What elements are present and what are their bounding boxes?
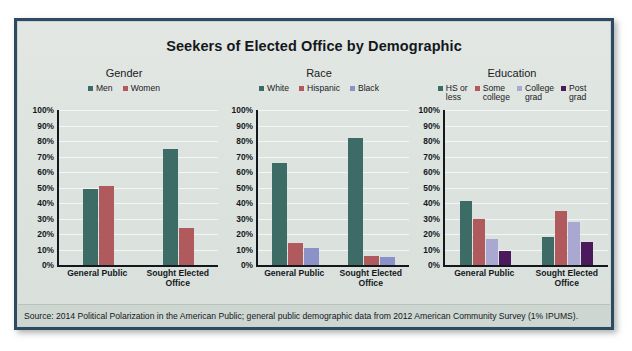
bar[interactable] <box>163 149 178 265</box>
y-axis-tick-label: 20% <box>423 229 440 239</box>
legend-item-label: Women <box>131 84 160 93</box>
bar-groups-gender <box>59 110 218 265</box>
x-axis-labels-gender: General PublicSought Elected Office <box>57 268 218 288</box>
chart-figure-inner: Seekers of Elected Office by Demographic… <box>17 21 611 327</box>
chart-figure-frame: Seekers of Elected Office by Demographic… <box>14 18 614 330</box>
plot-education: 100%90%80%70%60%50%40%30%20%10%0% Genera… <box>412 110 611 290</box>
bar[interactable] <box>581 242 593 265</box>
x-axis-label: General Public <box>257 268 331 288</box>
y-axis-tick-label: 10% <box>37 245 54 255</box>
legend-item[interactable]: College grad <box>517 84 554 103</box>
bar[interactable] <box>473 219 485 266</box>
x-axis-labels-race: General PublicSought Elected Office <box>256 268 409 288</box>
y-axis-tick-label: 80% <box>236 136 253 146</box>
legend-item[interactable]: HS or less <box>438 84 468 103</box>
y-axis-gender: 100%90%80%70%60%50%40%30%20%10%0% <box>26 110 56 265</box>
y-axis-tick-label: 100% <box>33 105 54 115</box>
bar[interactable] <box>380 257 395 265</box>
y-axis-tick-label: 100% <box>419 105 440 115</box>
y-axis-tick-label: 40% <box>37 198 54 208</box>
bar[interactable] <box>179 228 194 265</box>
y-axis-education: 100%90%80%70%60%50%40%30%20%10%0% <box>412 110 442 265</box>
y-axis-tick-label: 80% <box>423 136 440 146</box>
y-axis-tick-label: 20% <box>37 229 54 239</box>
legend-item-label: College grad <box>525 84 554 103</box>
screenshot-root: Seekers of Elected Office by Demographic… <box>0 0 632 351</box>
y-axis-tick-label: 70% <box>37 152 54 162</box>
bar[interactable] <box>542 237 554 265</box>
panel-title-education: Education <box>412 66 611 81</box>
legend-item[interactable]: Women <box>123 84 160 93</box>
y-axis-tick-label: 20% <box>236 229 253 239</box>
bar[interactable] <box>83 189 98 265</box>
bar[interactable] <box>304 248 319 265</box>
bar[interactable] <box>348 138 363 265</box>
bar[interactable] <box>568 222 580 265</box>
y-axis-tick-label: 30% <box>236 214 253 224</box>
bar-group <box>542 110 593 265</box>
bar-group <box>460 110 511 265</box>
chart-panel-race: Race WhiteHispanicBlack 100%90%80%70%60%… <box>225 66 413 298</box>
panel-title-gender: Gender <box>26 66 222 81</box>
legend-education: HS or lessSome collegeCollege gradPost g… <box>412 84 611 108</box>
legend-item-label: Post grad <box>569 84 586 103</box>
y-axis-tick-label: 90% <box>236 121 253 131</box>
y-axis-tick-label: 60% <box>423 167 440 177</box>
panel-title-race: Race <box>225 66 413 81</box>
legend-swatch-icon <box>561 86 566 91</box>
y-axis-tick-label: 0% <box>428 260 440 270</box>
x-axis-label: Sought Elected Office <box>334 268 408 288</box>
legend-item[interactable]: Men <box>88 84 113 93</box>
bar[interactable] <box>288 243 303 265</box>
legend-item[interactable]: Black <box>350 84 379 93</box>
page-title: Seekers of Elected Office by Demographic <box>18 38 610 54</box>
bar[interactable] <box>272 163 287 265</box>
y-axis-tick-label: 30% <box>37 214 54 224</box>
y-axis-tick-label: 60% <box>37 167 54 177</box>
bar-groups-race <box>258 110 409 265</box>
y-axis-tick-label: 80% <box>37 136 54 146</box>
legend-gender: MenWomen <box>26 84 222 108</box>
bar[interactable] <box>364 256 379 265</box>
legend-swatch-icon <box>123 86 128 91</box>
legend-item[interactable]: Post grad <box>561 84 586 103</box>
x-axis-label: General Public <box>447 268 521 288</box>
bar[interactable] <box>555 211 567 265</box>
legend-item-label: Some college <box>483 84 510 103</box>
y-axis-tick-label: 0% <box>241 260 253 270</box>
plot-area-race <box>256 110 409 267</box>
y-axis-tick-label: 40% <box>236 198 253 208</box>
y-axis-tick-label: 10% <box>236 245 253 255</box>
legend-item[interactable]: Hispanic <box>299 84 340 93</box>
plot-gender: 100%90%80%70%60%50%40%30%20%10%0% Genera… <box>26 110 222 290</box>
bar[interactable] <box>499 251 511 265</box>
legend-item-label: Men <box>96 84 113 93</box>
bar[interactable] <box>460 201 472 265</box>
bar-group <box>83 110 114 265</box>
legend-swatch-icon <box>299 86 304 91</box>
legend-item[interactable]: Some college <box>475 84 510 103</box>
y-axis-tick-label: 40% <box>423 198 440 208</box>
legend-item-label: Black <box>358 84 379 93</box>
bar[interactable] <box>99 186 114 265</box>
source-note: Source: 2014 Political Polarization in t… <box>18 311 578 321</box>
legend-item-label: HS or less <box>446 84 468 103</box>
y-axis-tick-label: 50% <box>236 183 253 193</box>
bar-group <box>348 110 395 265</box>
bar-group <box>272 110 319 265</box>
y-axis-tick-label: 50% <box>423 183 440 193</box>
legend-swatch-icon <box>475 86 480 91</box>
source-note-band: Source: 2014 Political Polarization in t… <box>18 304 610 326</box>
y-axis-tick-label: 10% <box>423 245 440 255</box>
y-axis-tick-label: 70% <box>423 152 440 162</box>
bar[interactable] <box>486 239 498 265</box>
legend-item[interactable]: White <box>259 84 289 93</box>
y-axis-tick-label: 60% <box>236 167 253 177</box>
chart-panel-education: Education HS or lessSome collegeCollege … <box>412 66 611 298</box>
y-axis-race: 100%90%80%70%60%50%40%30%20%10%0% <box>225 110 255 265</box>
chart-panel-gender: Gender MenWomen 100%90%80%70%60%50%40%30… <box>26 66 222 298</box>
plot-race: 100%90%80%70%60%50%40%30%20%10%0% Genera… <box>225 110 413 290</box>
legend-swatch-icon <box>88 86 93 91</box>
y-axis-tick-label: 70% <box>236 152 253 162</box>
x-axis-label: General Public <box>60 268 134 288</box>
